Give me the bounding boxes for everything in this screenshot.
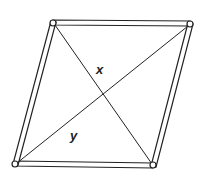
pin-bottom-right-icon [150,162,156,168]
rod-right [151,23,193,167]
diagonal-x [55,25,152,164]
pin-bottom-left-icon [12,161,18,167]
rod-top [53,20,190,26]
rod-left [13,21,56,165]
rhombus-diagram: x y [0,0,203,175]
label-x: x [95,62,104,77]
rod-bottom [15,161,153,168]
pin-top-right-icon [187,21,193,27]
label-y: y [69,128,78,143]
pin-top-left-icon [50,20,56,26]
